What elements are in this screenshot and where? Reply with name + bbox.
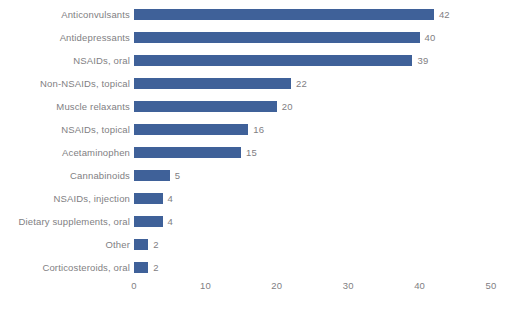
bar-row: NSAIDs, oral39 xyxy=(0,49,508,72)
category-label: NSAIDs, oral xyxy=(73,49,130,72)
bar xyxy=(134,55,412,66)
bar-row: Non-NSAIDs, topical22 xyxy=(0,72,508,95)
x-axis-tick-label: 20 xyxy=(271,276,282,296)
bar-track xyxy=(134,193,163,204)
bar-value-label: 4 xyxy=(168,187,173,210)
bar-value-label: 39 xyxy=(417,49,428,72)
category-label: Non-NSAIDs, topical xyxy=(40,72,130,95)
bar-track xyxy=(134,170,170,181)
bar-track xyxy=(134,124,248,135)
bar xyxy=(134,9,434,20)
bar-value-label: 15 xyxy=(246,141,257,164)
bar-chart: Anticonvulsants42Antidepressants40NSAIDs… xyxy=(0,0,508,313)
bar xyxy=(134,262,148,273)
bar-value-label: 22 xyxy=(296,72,307,95)
bar-row: Acetaminophen15 xyxy=(0,141,508,164)
bar xyxy=(134,239,148,250)
category-label: Antidepressants xyxy=(60,26,130,49)
bar-track xyxy=(134,216,163,227)
bar xyxy=(134,193,163,204)
bar-value-label: 2 xyxy=(153,233,158,256)
category-label: Acetaminophen xyxy=(62,141,130,164)
bar xyxy=(134,216,163,227)
bar-track xyxy=(134,55,412,66)
bar-row: Anticonvulsants42 xyxy=(0,3,508,26)
bar-row: NSAIDs, topical16 xyxy=(0,118,508,141)
bar xyxy=(134,124,248,135)
bar-value-label: 16 xyxy=(253,118,264,141)
bar-value-label: 42 xyxy=(439,3,450,26)
category-label: Anticonvulsants xyxy=(61,3,130,26)
plot-area: Anticonvulsants42Antidepressants40NSAIDs… xyxy=(0,0,508,313)
bar-row: Other2 xyxy=(0,233,508,256)
bar xyxy=(134,170,170,181)
bar-track xyxy=(134,262,148,273)
x-axis-tick-label: 0 xyxy=(131,276,136,296)
bar-row: Cannabinoids5 xyxy=(0,164,508,187)
bar-row: Antidepressants40 xyxy=(0,26,508,49)
category-label: NSAIDs, topical xyxy=(61,118,130,141)
category-label: NSAIDs, injection xyxy=(54,187,130,210)
bar-track xyxy=(134,147,241,158)
bar-row: Muscle relaxants20 xyxy=(0,95,508,118)
x-axis-tick-label: 10 xyxy=(200,276,211,296)
bar-track xyxy=(134,239,148,250)
bar-value-label: 4 xyxy=(168,210,173,233)
bar-track xyxy=(134,78,291,89)
x-axis: 01020304050 xyxy=(0,276,508,296)
bar-track xyxy=(134,101,277,112)
x-axis-tick-label: 40 xyxy=(414,276,425,296)
bar-value-label: 40 xyxy=(425,26,436,49)
x-axis-tick-label: 50 xyxy=(486,276,497,296)
category-label: Dietary supplements, oral xyxy=(19,210,130,233)
bar-value-label: 5 xyxy=(175,164,180,187)
bar-row: Dietary supplements, oral4 xyxy=(0,210,508,233)
category-label: Other xyxy=(105,233,130,256)
bar xyxy=(134,147,241,158)
bar xyxy=(134,32,420,43)
bar-track xyxy=(134,32,420,43)
bar xyxy=(134,78,291,89)
x-axis-tick-label: 30 xyxy=(343,276,354,296)
bar-track xyxy=(134,9,434,20)
category-label: Muscle relaxants xyxy=(56,95,130,118)
category-label: Cannabinoids xyxy=(70,164,130,187)
bar xyxy=(134,101,277,112)
bar-value-label: 20 xyxy=(282,95,293,118)
bar-row: NSAIDs, injection4 xyxy=(0,187,508,210)
